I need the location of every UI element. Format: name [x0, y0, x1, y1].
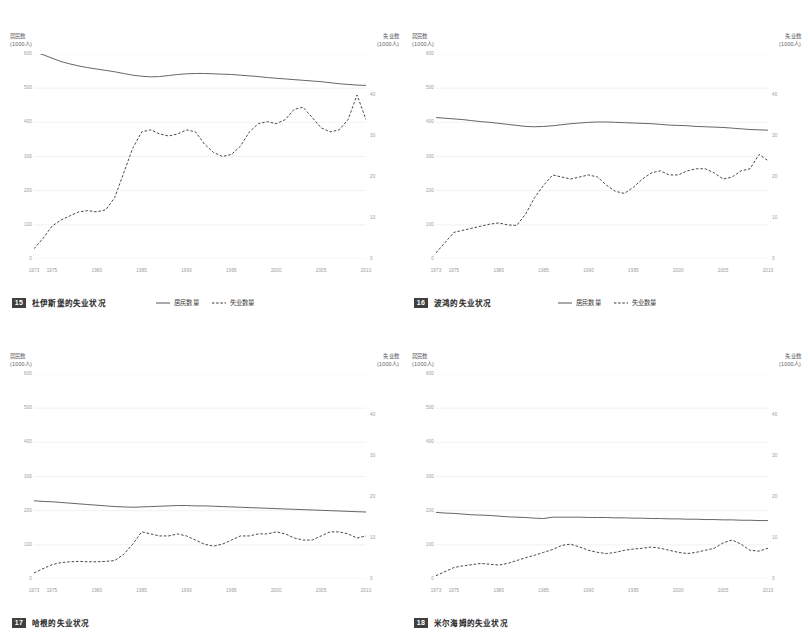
left-axis-title-18: 居民数 (1000人): [412, 352, 434, 368]
left-axis-title-17: 居民数 (1000人): [10, 352, 32, 368]
x-tick-2010: 2010: [361, 268, 372, 273]
x-tick-2000: 2000: [271, 588, 282, 593]
right-axis-title-15: 失业数 (1000人): [377, 32, 399, 48]
caption-number-badge: 18: [414, 618, 428, 628]
left-axis-title-15: 居民数 (1000人): [10, 32, 32, 48]
chart-panel-18: 居民数 (1000人) 失业数 (1000人) 6005004003002001…: [408, 330, 803, 640]
x-tick-2005: 2005: [718, 588, 729, 593]
x-tick-1990: 1990: [181, 268, 192, 273]
x-tick-2000: 2000: [271, 268, 282, 273]
x-tick-2000: 2000: [673, 268, 684, 273]
series-line-unemployed: [34, 95, 366, 249]
x-tick-1985: 1985: [136, 268, 147, 273]
y-tick-right: 20: [370, 494, 386, 499]
y-tick-left: 400: [418, 439, 434, 444]
y-tick-right: 0: [370, 576, 386, 581]
left-axis-unit: (1000人): [412, 360, 434, 368]
x-tick-1973: 1973: [431, 588, 442, 593]
x-tick-1975: 1975: [449, 268, 460, 273]
x-tick-1973: 1973: [431, 268, 442, 273]
y-tick-left: 0: [16, 576, 32, 581]
x-tick-2010: 2010: [763, 588, 774, 593]
legend-item: 失业数量: [614, 298, 657, 307]
y-tick-left: 500: [418, 405, 434, 410]
y-tick-right: 10: [772, 215, 788, 220]
x-tick-1975: 1975: [449, 588, 460, 593]
series-line-residents: [436, 118, 768, 131]
y-tick-left: 0: [418, 576, 434, 581]
left-axis-name: 居民数: [412, 33, 428, 39]
y-tick-right: 10: [370, 215, 386, 220]
x-tick-1995: 1995: [628, 588, 639, 593]
y-tick-left: 400: [418, 119, 434, 124]
x-tick-1990: 1990: [583, 588, 594, 593]
x-tick-2005: 2005: [316, 268, 327, 273]
y-tick-left: 200: [16, 188, 32, 193]
right-axis-title-16: 失业数 (1000人): [779, 32, 801, 48]
y-tick-right: 40: [370, 412, 386, 417]
y-tick-left: 200: [418, 188, 434, 193]
right-axis-name: 失业数: [785, 33, 801, 39]
plot-area-18: [436, 374, 768, 579]
legend-solid-line-icon: [156, 300, 170, 306]
y-tick-left: 600: [418, 51, 434, 56]
charts-page: 居民数 (1000人) 失业数 (1000人) 6005004003002001…: [0, 0, 809, 643]
x-tick-1975: 1975: [47, 268, 58, 273]
caption-number-badge: 17: [12, 618, 26, 628]
caption-title: 波鸿的失业状况: [434, 297, 491, 308]
left-axis-unit: (1000人): [10, 360, 32, 368]
x-tick-1980: 1980: [493, 268, 504, 273]
caption-number-badge: 15: [12, 298, 26, 308]
right-axis-title-17: 失业数 (1000人): [377, 352, 399, 368]
y-tick-left: 600: [16, 371, 32, 376]
legend-label: 失业数量: [230, 298, 255, 307]
chart-caption-18: 18米尔海姆的失业状况: [414, 617, 508, 628]
x-tick-2000: 2000: [673, 588, 684, 593]
chart-caption-15: 15杜伊斯堡的失业状况: [12, 297, 106, 308]
y-tick-left: 200: [418, 508, 434, 513]
y-tick-right: 30: [772, 453, 788, 458]
x-tick-1973: 1973: [29, 588, 40, 593]
y-tick-left: 500: [16, 405, 32, 410]
x-tick-1980: 1980: [493, 588, 504, 593]
y-tick-left: 100: [16, 222, 32, 227]
right-axis-name: 失业数: [785, 353, 801, 359]
caption-number-badge: 16: [414, 298, 428, 308]
y-tick-left: 300: [16, 154, 32, 159]
y-tick-left: 100: [16, 542, 32, 547]
chart-svg-17: [34, 374, 366, 579]
left-axis-unit: (1000人): [412, 40, 434, 48]
y-tick-left: 400: [16, 439, 32, 444]
x-tick-1973: 1973: [29, 268, 40, 273]
legend-item: 居民数量: [558, 298, 601, 307]
legend-label: 失业数量: [632, 298, 657, 307]
y-tick-right: 20: [370, 174, 386, 179]
caption-title: 哈根的失业状况: [32, 617, 89, 628]
series-line-unemployed: [436, 154, 768, 252]
x-tick-1990: 1990: [583, 268, 594, 273]
right-axis-title-18: 失业数 (1000人): [779, 352, 801, 368]
x-tick-1995: 1995: [628, 268, 639, 273]
x-tick-2010: 2010: [763, 268, 774, 273]
x-tick-1995: 1995: [226, 268, 237, 273]
x-tick-2010: 2010: [361, 588, 372, 593]
left-axis-name: 居民数: [10, 33, 26, 39]
y-tick-left: 300: [418, 154, 434, 159]
y-tick-right: 20: [772, 494, 788, 499]
y-tick-left: 600: [16, 51, 32, 56]
y-tick-right: 40: [772, 92, 788, 97]
x-tick-1985: 1985: [538, 588, 549, 593]
right-axis-name: 失业数: [383, 353, 399, 359]
caption-title: 杜伊斯堡的失业状况: [32, 297, 106, 308]
y-tick-left: 100: [418, 542, 434, 547]
series-line-unemployed: [436, 540, 768, 576]
y-tick-left: 500: [418, 85, 434, 90]
y-tick-left: 100: [418, 222, 434, 227]
x-tick-1975: 1975: [47, 588, 58, 593]
x-tick-1985: 1985: [538, 268, 549, 273]
plot-area-16: [436, 54, 768, 259]
x-tick-2005: 2005: [718, 268, 729, 273]
y-tick-left: 200: [16, 508, 32, 513]
x-tick-1980: 1980: [91, 588, 102, 593]
y-tick-left: 0: [16, 256, 32, 261]
